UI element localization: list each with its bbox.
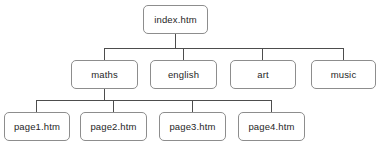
node-label-page2-htm: page2.htm — [90, 122, 136, 132]
site-map-diagram: index.htm maths english art music page1.… — [0, 0, 380, 151]
node-label-index-htm: index.htm — [154, 15, 197, 25]
node-maths[interactable]: maths — [71, 60, 138, 89]
node-page4-htm[interactable]: page4.htm — [238, 112, 305, 141]
node-label-english: english — [168, 70, 199, 80]
node-label-music: music — [331, 70, 357, 80]
node-page3-htm[interactable]: page3.htm — [159, 112, 226, 141]
node-label-page1-htm: page1.htm — [14, 122, 60, 132]
node-label-maths: maths — [91, 70, 118, 80]
node-index-htm[interactable]: index.htm — [143, 5, 208, 34]
node-page2-htm[interactable]: page2.htm — [80, 112, 147, 141]
node-label-page3-htm: page3.htm — [169, 122, 215, 132]
node-label-page4-htm: page4.htm — [248, 122, 294, 132]
node-page1-htm[interactable]: page1.htm — [4, 112, 70, 141]
node-art[interactable]: art — [230, 60, 296, 89]
node-english[interactable]: english — [150, 60, 217, 89]
node-label-art: art — [257, 70, 269, 80]
node-music[interactable]: music — [311, 60, 376, 89]
